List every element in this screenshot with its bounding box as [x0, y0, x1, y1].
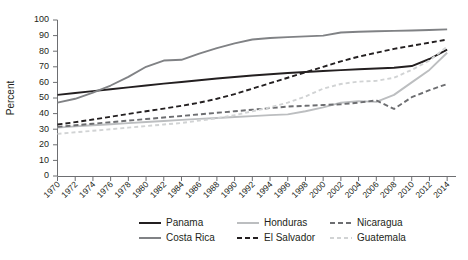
y-tick-label: 80: [39, 46, 49, 56]
x-axis-ticks: [58, 177, 448, 182]
legend-label: Nicaragua: [357, 217, 403, 228]
line-chart: 0102030405060708090100 Percent 197019721…: [0, 0, 468, 260]
x-tick-label: 2012: [413, 179, 434, 200]
x-tick-label: 1998: [289, 179, 310, 200]
y-axis-ticks: 0102030405060708090100: [34, 14, 58, 180]
chart-container: 0102030405060708090100 Percent 197019721…: [0, 0, 468, 260]
legend-item-honduras[interactable]: Honduras: [237, 217, 307, 228]
series-line-costa-rica: [58, 29, 448, 102]
x-tick-label: 1988: [201, 179, 222, 200]
x-tick-label: 1990: [219, 179, 240, 200]
x-tick-label: 1976: [95, 179, 116, 200]
legend-item-el-salvador[interactable]: El Salvador: [237, 232, 316, 243]
legend-item-panama[interactable]: Panama: [139, 217, 204, 228]
legend-label: El Salvador: [264, 232, 316, 243]
legend-label: Panama: [166, 217, 204, 228]
legend-item-guatemala[interactable]: Guatemala: [330, 232, 406, 243]
x-tick-label: 1996: [272, 179, 293, 200]
y-tick-label: 0: [44, 170, 49, 180]
y-tick-label: 60: [39, 77, 49, 87]
x-tick-label: 1970: [41, 179, 62, 200]
y-tick-label: 100: [34, 14, 49, 24]
chart-legend: PanamaHondurasNicaraguaCosta RicaEl Salv…: [139, 217, 406, 243]
x-tick-label: 2010: [396, 179, 417, 200]
legend-item-costa-rica[interactable]: Costa Rica: [139, 232, 215, 243]
legend-label: Costa Rica: [166, 232, 215, 243]
x-tick-label: 1974: [77, 179, 98, 200]
y-tick-label: 70: [39, 61, 49, 71]
x-axis-tick-labels: 1970197219741976197819801982198419861988…: [41, 179, 451, 200]
legend-item-nicaragua[interactable]: Nicaragua: [330, 217, 403, 228]
series-line-nicaragua: [58, 84, 448, 127]
y-tick-label: 20: [39, 139, 49, 149]
x-tick-label: 1986: [183, 179, 204, 200]
series-line-panama: [58, 50, 448, 95]
x-tick-label: 2008: [378, 179, 399, 200]
y-tick-label: 30: [39, 124, 49, 134]
x-tick-label: 1984: [165, 179, 186, 200]
y-tick-label: 10: [39, 155, 49, 165]
x-tick-label: 1992: [236, 179, 257, 200]
x-tick-label: 1978: [112, 179, 133, 200]
x-tick-label: 2006: [360, 179, 381, 200]
x-tick-label: 1980: [130, 179, 151, 200]
x-tick-label: 2004: [343, 179, 364, 200]
x-tick-label: 1994: [254, 179, 275, 200]
x-tick-label: 2002: [325, 179, 346, 200]
x-tick-label: 2000: [307, 179, 328, 200]
y-tick-label: 90: [39, 30, 49, 40]
y-axis-title: Percent: [5, 81, 16, 116]
y-tick-label: 40: [39, 108, 49, 118]
x-tick-label: 1972: [59, 179, 80, 200]
data-series-group: [58, 29, 448, 134]
legend-label: Guatemala: [357, 232, 406, 243]
y-tick-label: 50: [39, 92, 49, 102]
x-axis: 1970197219741976197819801982198419861988…: [41, 177, 456, 200]
x-tick-label: 2014: [431, 179, 452, 200]
legend-label: Honduras: [264, 217, 307, 228]
x-tick-label: 1982: [148, 179, 169, 200]
y-axis: 0102030405060708090100 Percent: [5, 14, 58, 180]
